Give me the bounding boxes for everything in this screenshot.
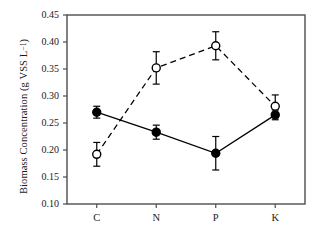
axes-frame-box — [67, 15, 305, 204]
data-point-filled — [93, 108, 101, 116]
plot-area — [0, 0, 322, 233]
data-point-open — [212, 42, 220, 50]
data-point-open — [152, 64, 160, 72]
series-line — [97, 112, 276, 153]
data-point-open — [271, 102, 279, 110]
axes-frame — [67, 15, 305, 204]
series-line — [97, 46, 276, 155]
series-filled-circle — [93, 106, 280, 170]
data-point-filled — [152, 128, 160, 136]
data-series-layer — [93, 32, 280, 170]
series-open-circle — [93, 32, 280, 166]
data-point-filled — [212, 149, 220, 157]
data-point-open — [93, 150, 101, 158]
chart-figure: Biomass Concentration (g VSS L−1) 0.100.… — [0, 0, 322, 233]
